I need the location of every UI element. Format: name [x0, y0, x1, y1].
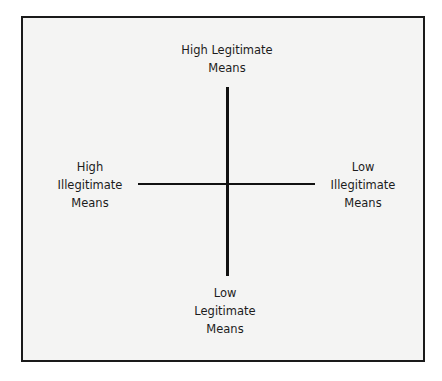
label-line: Low — [323, 158, 403, 176]
label-line: Means — [185, 320, 265, 338]
label-high-legitimate-means: High Legitimate Means — [167, 41, 287, 77]
label-line: Illegitimate — [50, 176, 130, 194]
horizontal-axis-line — [138, 183, 315, 185]
label-line: Illegitimate — [323, 176, 403, 194]
label-line: High — [50, 158, 130, 176]
label-low-legitimate-means: Low Legitimate Means — [185, 284, 265, 338]
label-line: High Legitimate — [167, 41, 287, 59]
label-low-illegitimate-means: Low Illegitimate Means — [323, 158, 403, 212]
label-high-illegitimate-means: High Illegitimate Means — [50, 158, 130, 212]
vertical-axis-line — [226, 87, 229, 276]
label-line: Legitimate — [185, 302, 265, 320]
label-line: Low — [185, 284, 265, 302]
label-line: Means — [323, 194, 403, 212]
label-line: Means — [50, 194, 130, 212]
label-line: Means — [167, 59, 287, 77]
